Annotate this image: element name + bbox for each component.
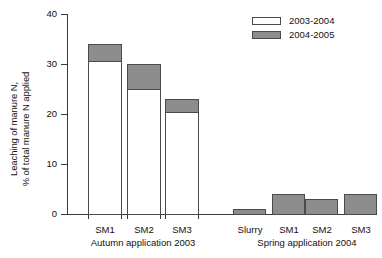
y-tick-30	[61, 64, 67, 65]
category-label-spring-sm3: SM3	[341, 224, 381, 235]
bar-spring-sm1-2004-2005	[272, 194, 305, 215]
legend-item-2003-2004: 2003-2004	[252, 14, 334, 28]
category-label-spring-sm2: SM2	[302, 224, 342, 235]
bar-spring-sm3-2004-2005	[344, 194, 377, 215]
legend: 2003-2004 2004-2005	[252, 14, 334, 42]
y-tick-label-10: 10	[17, 159, 57, 169]
y-tick-label-40: 40	[17, 9, 57, 19]
category-label-autumn-sm3: SM3	[162, 224, 202, 235]
leaching-bar-chart: Leaching of manure N, % of total manure …	[0, 0, 382, 258]
legend-label-2003-2004: 2003-2004	[289, 16, 334, 26]
legend-swatch-gray-icon	[252, 31, 281, 39]
y-axis-title-line-2: % of total manure N applied	[20, 72, 32, 187]
y-axis-line	[67, 14, 68, 215]
category-label-spring-slurry: Slurry	[227, 224, 273, 235]
y-tick-label-0: 0	[17, 209, 57, 219]
group-label-spring: Spring application 2004	[232, 237, 382, 248]
bar-autumn-sm2-2004-2005	[127, 64, 161, 90]
bar-autumn-sm1-2004-2005	[88, 44, 122, 62]
category-label-autumn-sm2: SM2	[124, 224, 164, 235]
bar-autumn-sm3-2003-2004	[165, 112, 199, 215]
y-axis-title-line-1: Leaching of manure N,	[8, 72, 20, 187]
y-tick-0	[61, 214, 67, 215]
y-tick-label-20: 20	[17, 109, 57, 119]
y-tick-label-30: 30	[17, 59, 57, 69]
bar-autumn-sm3-2004-2005	[165, 99, 199, 113]
legend-label-2004-2005: 2004-2005	[289, 30, 334, 40]
bar-autumn-sm1-2003-2004	[88, 61, 122, 215]
y-tick-10	[61, 164, 67, 165]
bar-spring-sm2-2004-2005	[305, 199, 338, 215]
y-tick-40	[61, 14, 67, 15]
group-label-autumn: Autumn application 2003	[63, 237, 223, 248]
legend-swatch-white-icon	[252, 17, 281, 25]
bar-spring-slurry-2004-2005	[233, 209, 266, 215]
category-label-autumn-sm1: SM1	[85, 224, 125, 235]
y-axis-title: Leaching of manure N, % of total manure …	[0, 0, 40, 258]
legend-item-2004-2005: 2004-2005	[252, 28, 334, 42]
y-tick-20	[61, 114, 67, 115]
bar-autumn-sm2-2003-2004	[127, 89, 161, 215]
